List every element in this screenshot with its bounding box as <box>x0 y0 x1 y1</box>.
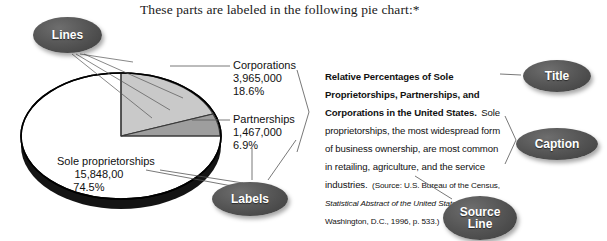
caption-body: Sole proprietorships, the most widesprea… <box>325 107 500 190</box>
slice-label-sole-count: 15,848,00 <box>57 168 155 181</box>
leader-caption <box>505 116 516 164</box>
caption-source-prefix: (Source: U.S. Bureau of the Census, <box>372 181 500 190</box>
slice-label-corporations-percent: 18.6% <box>233 85 296 98</box>
slice-label-partnerships-count: 1,467,000 <box>233 126 295 139</box>
callout-bubble-labels[interactable]: Labels <box>212 182 288 216</box>
slice-label-sole-proprietorships: Sole proprietorships 15,848,00 74.5% <box>57 155 155 195</box>
callout-bubble-lines[interactable]: Lines <box>33 17 102 53</box>
callout-bubble-title[interactable]: Title <box>523 60 591 92</box>
callout-bubble-labels-label: Labels <box>231 193 269 206</box>
figure-canvas: These parts are labeled in the following… <box>0 0 607 241</box>
callout-bubble-caption[interactable]: Caption <box>516 128 598 160</box>
callout-bubble-caption-label: Caption <box>535 138 580 151</box>
slice-label-sole-percent: 74.5% <box>57 181 155 194</box>
callout-bubble-source-line[interactable]: Source Line <box>443 196 517 240</box>
slice-label-corporations: Corporations 3,965,000 18.6% <box>233 59 296 99</box>
page-heading: These parts are labeled in the following… <box>140 2 420 18</box>
slice-label-corporations-count: 3,965,000 <box>233 72 296 85</box>
callout-bubble-title-label: Title <box>545 70 569 83</box>
slice-label-corporations-name: Corporations <box>233 59 296 72</box>
callout-bubble-lines-label: Lines <box>52 29 83 42</box>
slice-label-partnerships: Partnerships 1,467,000 6.9% <box>233 113 295 153</box>
caption-source-italic: Statistical Abstract of the United State… <box>325 199 463 208</box>
slice-label-partnerships-percent: 6.9% <box>233 139 295 152</box>
slice-label-sole-name: Sole proprietorships <box>57 155 155 168</box>
caption-title: Relative Percentages of Sole Proprietors… <box>325 71 479 118</box>
slice-label-partnerships-name: Partnerships <box>233 113 295 126</box>
leader-title <box>500 74 521 75</box>
callout-bubble-source-line-2: Line <box>460 218 501 231</box>
leader-labels-bracket <box>297 70 309 152</box>
